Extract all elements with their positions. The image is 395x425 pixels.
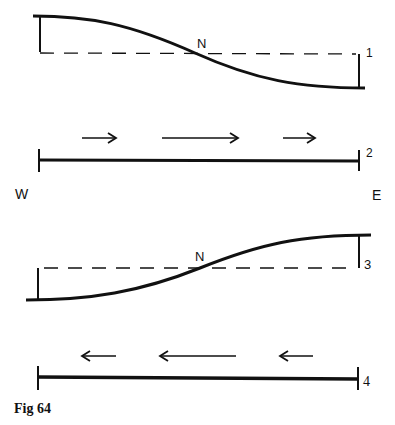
panel-3-number: 3	[364, 258, 371, 271]
panel-2-bar	[39, 160, 359, 161]
arrow-east-icon	[162, 133, 238, 143]
arrow-east-icon	[82, 133, 116, 143]
panel-1-profile	[33, 16, 365, 88]
panel-2-flow	[39, 133, 359, 172]
figure-64: N 1 2 W E N 3 4 Fig 64	[0, 0, 395, 425]
arrow-east-icon	[283, 133, 315, 143]
east-label: E	[372, 188, 381, 202]
panel-1-surface-curve	[33, 16, 365, 88]
panel-4-flow	[38, 351, 358, 390]
arrow-west-icon	[280, 351, 313, 361]
diagram-canvas	[0, 0, 395, 425]
panel-4-number: 4	[363, 375, 370, 389]
panel-3-node-label: N	[195, 250, 204, 263]
west-label: W	[15, 187, 28, 201]
arrow-west-icon	[160, 351, 236, 361]
panel-2-number: 2	[366, 147, 373, 159]
figure-caption: Fig 64	[14, 402, 51, 416]
panel-1-node-label: N	[197, 37, 206, 50]
panel-1-number: 1	[366, 47, 373, 59]
panel-3-profile	[26, 235, 371, 300]
panel-4-bar	[38, 377, 358, 379]
arrow-west-icon	[82, 351, 116, 361]
